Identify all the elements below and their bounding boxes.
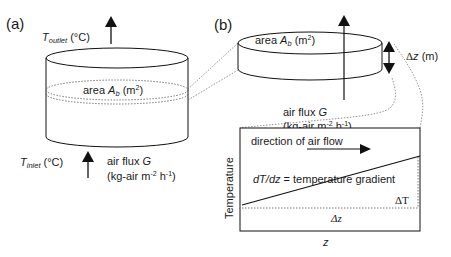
slice-bottom-arc xyxy=(238,69,382,80)
dz-label: Δz (m) xyxy=(406,50,438,62)
area-label-b: area Ab (m2) xyxy=(255,34,315,48)
delta-t-label: ΔT xyxy=(395,194,409,206)
outlet-arrowhead-icon xyxy=(105,16,117,27)
dz-arrowhead-up-icon xyxy=(383,41,395,52)
bed-top-ellipse xyxy=(46,48,188,68)
inlet-temperature-label: Tinlet (°C) xyxy=(20,156,63,170)
air-flux-label-b-line1: air flux G xyxy=(283,106,327,118)
panel-b: (b) area Ab (m2) Δz (m) air flux G (kg-a… xyxy=(214,15,438,132)
air-flux-label-a-line1: air flux G xyxy=(107,155,151,167)
delta-z-label: Δz xyxy=(330,212,342,224)
bed-temperature-diagram: (a) Toutlet (°C) area Ab (m2) Tinlet (°C… xyxy=(0,0,451,257)
temperature-gradient-graph: direction of air flow dT/dz = temperatur… xyxy=(223,128,420,248)
projection-lines-a-to-b xyxy=(188,43,238,100)
gradient-equation: dT/dz = temperature gradient xyxy=(253,173,395,185)
inlet-arrowhead-icon xyxy=(82,151,94,162)
area-label-a: area Ab (m2) xyxy=(83,84,143,98)
panel-a-label: (a) xyxy=(6,15,24,32)
panel-a: (a) Toutlet (°C) area Ab (m2) Tinlet (°C… xyxy=(6,15,188,182)
dz-arrowhead-down-icon xyxy=(383,63,395,74)
bed-bottom-arc xyxy=(46,137,188,147)
y-axis-label: Temperature xyxy=(223,157,235,219)
projection-lines-b-to-graph xyxy=(240,44,423,128)
x-axis-label: z xyxy=(322,236,329,248)
flow-direction-label: direction of air flow xyxy=(251,135,343,147)
outlet-temperature-label: Toutlet (°C) xyxy=(42,31,90,45)
slice-airflow-arrowhead-icon xyxy=(338,15,350,26)
panel-b-label: (b) xyxy=(214,16,232,33)
air-flux-label-a-line2: (kg-air m-2 h-1) xyxy=(107,170,176,182)
